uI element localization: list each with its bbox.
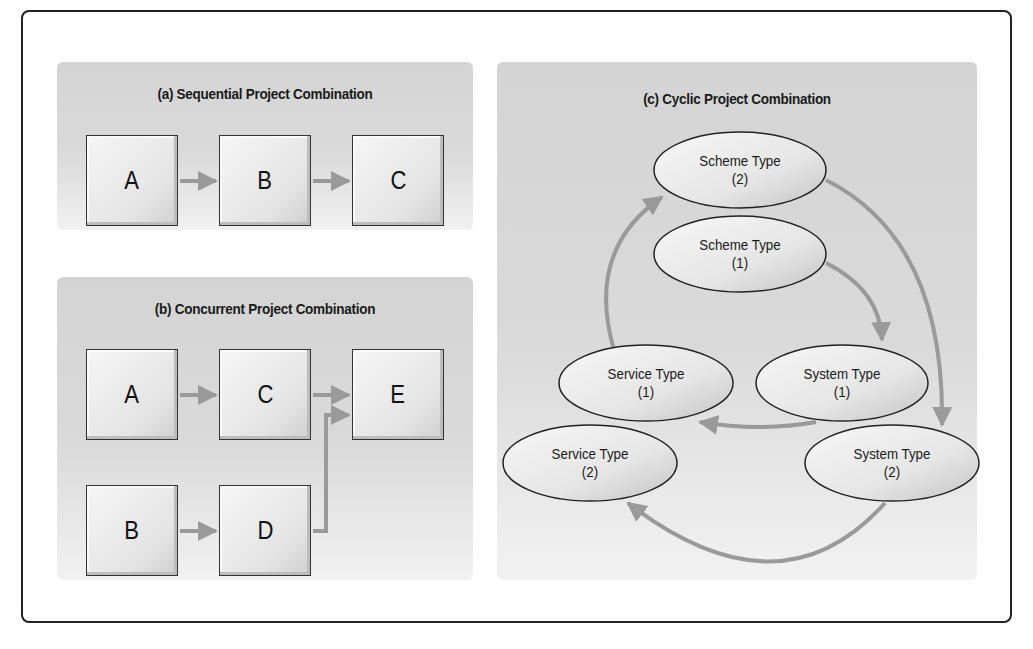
- node-name: Scheme Type: [666, 152, 813, 170]
- label-scheme-type-1: Scheme Type (1): [666, 236, 813, 272]
- node-name: System Type: [768, 365, 915, 383]
- arrow-system1-service1: [700, 422, 816, 427]
- label-scheme-type-2: Scheme Type (2): [666, 152, 813, 188]
- node-index: (2): [516, 463, 663, 481]
- diagram-arrows-and-ellipses: [0, 0, 1033, 649]
- label-system-type-2: System Type (2): [818, 445, 965, 481]
- node-name: Scheme Type: [666, 236, 813, 254]
- label-service-type-2: Service Type (2): [516, 445, 663, 481]
- arrow-b-D-E: [313, 415, 349, 531]
- label-service-type-1: Service Type (1): [572, 365, 719, 401]
- label-system-type-1: System Type (1): [768, 365, 915, 401]
- node-index: (1): [572, 383, 719, 401]
- arrow-service1-scheme2: [606, 197, 662, 350]
- node-index: (2): [818, 463, 965, 481]
- node-index: (1): [768, 383, 915, 401]
- node-name: Service Type: [516, 445, 663, 463]
- node-name: System Type: [818, 445, 965, 463]
- node-index: (2): [666, 170, 813, 188]
- arrow-system2-service2: [628, 503, 885, 562]
- arrow-scheme1-system1: [826, 263, 882, 340]
- node-index: (1): [666, 254, 813, 272]
- node-name: Service Type: [572, 365, 719, 383]
